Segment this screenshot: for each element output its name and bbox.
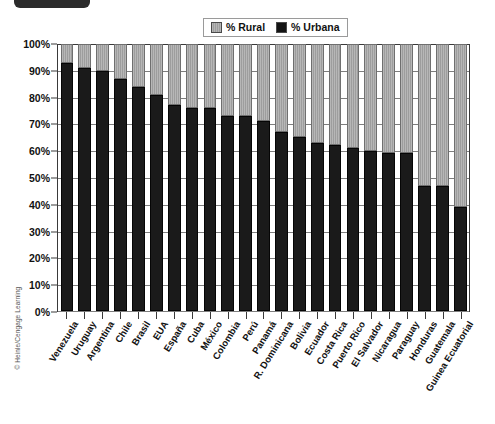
bar-segment-urbana[interactable] xyxy=(257,121,270,311)
stacked-bar[interactable] xyxy=(61,44,74,311)
bar-column[interactable] xyxy=(147,44,165,311)
bar-column[interactable] xyxy=(219,44,237,311)
bar-column[interactable] xyxy=(255,44,273,311)
stacked-bar[interactable] xyxy=(78,44,91,311)
stacked-bar[interactable] xyxy=(150,44,163,311)
bar-segment-urbana[interactable] xyxy=(168,105,181,311)
bar-column[interactable] xyxy=(76,44,94,311)
stacked-bar[interactable] xyxy=(132,44,145,311)
bar-segment-urbana[interactable] xyxy=(347,148,360,311)
bar-segment-rural[interactable] xyxy=(418,44,431,186)
x-axis-tick-mark xyxy=(389,312,390,319)
stacked-bar[interactable] xyxy=(364,44,377,311)
stacked-bar[interactable] xyxy=(329,44,342,311)
stacked-bar[interactable] xyxy=(275,44,288,311)
bar-segment-rural[interactable] xyxy=(364,44,377,151)
bar-segment-rural[interactable] xyxy=(275,44,288,132)
bar-column[interactable] xyxy=(308,44,326,311)
bar-segment-urbana[interactable] xyxy=(436,186,449,311)
bar-segment-rural[interactable] xyxy=(186,44,199,108)
bar-column[interactable] xyxy=(201,44,219,311)
x-axis-tick xyxy=(219,312,237,319)
stacked-bar[interactable] xyxy=(400,44,413,311)
bar-segment-rural[interactable] xyxy=(311,44,324,143)
bar-segment-urbana[interactable] xyxy=(311,143,324,311)
stacked-bar[interactable] xyxy=(454,44,467,311)
bar-segment-urbana[interactable] xyxy=(78,68,91,311)
stacked-bar[interactable] xyxy=(311,44,324,311)
bar-segment-rural[interactable] xyxy=(150,44,163,95)
bar-segment-urbana[interactable] xyxy=(293,137,306,311)
bar-column[interactable] xyxy=(58,44,76,311)
stacked-bar[interactable] xyxy=(96,44,109,311)
bar-column[interactable] xyxy=(237,44,255,311)
bar-column[interactable] xyxy=(273,44,291,311)
bar-segment-urbana[interactable] xyxy=(418,186,431,311)
bar-segment-urbana[interactable] xyxy=(221,116,234,311)
bar-segment-rural[interactable] xyxy=(400,44,413,153)
bar-segment-urbana[interactable] xyxy=(239,116,252,311)
stacked-bar[interactable] xyxy=(382,44,395,311)
bar-column[interactable] xyxy=(380,44,398,311)
stacked-bar[interactable] xyxy=(168,44,181,311)
bar-column[interactable] xyxy=(165,44,183,311)
bar-column[interactable] xyxy=(183,44,201,311)
bar-segment-urbana[interactable] xyxy=(61,63,74,311)
stacked-bar[interactable] xyxy=(239,44,252,311)
x-axis-tick xyxy=(362,312,380,319)
bar-segment-urbana[interactable] xyxy=(96,71,109,311)
bar-column[interactable] xyxy=(112,44,130,311)
bar-segment-rural[interactable] xyxy=(347,44,360,148)
bar-column[interactable] xyxy=(290,44,308,311)
bar-segment-rural[interactable] xyxy=(454,44,467,207)
bar-column[interactable] xyxy=(326,44,344,311)
bar-segment-urbana[interactable] xyxy=(204,108,217,311)
bar-column[interactable] xyxy=(130,44,148,311)
bar-segment-rural[interactable] xyxy=(168,44,181,105)
bar-segment-rural[interactable] xyxy=(204,44,217,108)
bar-segment-rural[interactable] xyxy=(293,44,306,137)
bar-segment-urbana[interactable] xyxy=(132,87,145,311)
bar-segment-rural[interactable] xyxy=(132,44,145,87)
bar-segment-rural[interactable] xyxy=(382,44,395,153)
bar-segment-urbana[interactable] xyxy=(275,132,288,311)
stacked-bar[interactable] xyxy=(204,44,217,311)
bar-column[interactable] xyxy=(362,44,380,311)
bar-segment-urbana[interactable] xyxy=(454,207,467,311)
bar-column[interactable] xyxy=(344,44,362,311)
stacked-bar[interactable] xyxy=(293,44,306,311)
x-axis-tick-mark xyxy=(228,312,229,319)
bar-segment-urbana[interactable] xyxy=(186,108,199,311)
bar-segment-rural[interactable] xyxy=(239,44,252,116)
bar-segment-urbana[interactable] xyxy=(150,95,163,311)
chart-plot-area xyxy=(57,44,470,312)
bar-segment-urbana[interactable] xyxy=(382,153,395,311)
bar-segment-urbana[interactable] xyxy=(329,145,342,311)
bar-segment-urbana[interactable] xyxy=(114,79,127,311)
stacked-bar[interactable] xyxy=(436,44,449,311)
bar-segment-rural[interactable] xyxy=(61,44,74,63)
bar-segment-urbana[interactable] xyxy=(400,153,413,311)
stacked-bar[interactable] xyxy=(186,44,199,311)
stacked-bar[interactable] xyxy=(257,44,270,311)
bar-column[interactable] xyxy=(451,44,469,311)
bar-segment-rural[interactable] xyxy=(96,44,109,71)
stacked-bar[interactable] xyxy=(114,44,127,311)
bar-column[interactable] xyxy=(398,44,416,311)
bar-segment-urbana[interactable] xyxy=(364,151,377,311)
bar-segment-rural[interactable] xyxy=(436,44,449,186)
stacked-bar[interactable] xyxy=(418,44,431,311)
bar-segment-rural[interactable] xyxy=(78,44,91,68)
bar-segment-rural[interactable] xyxy=(221,44,234,116)
x-axis-tick xyxy=(75,312,93,319)
stacked-bar[interactable] xyxy=(347,44,360,311)
bar-column[interactable] xyxy=(94,44,112,311)
bar-column[interactable] xyxy=(416,44,434,311)
bar-column[interactable] xyxy=(433,44,451,311)
bar-segment-rural[interactable] xyxy=(257,44,270,121)
bar-segment-rural[interactable] xyxy=(114,44,127,79)
bar-segment-rural[interactable] xyxy=(329,44,342,145)
top-black-tab xyxy=(14,0,90,8)
stacked-bar[interactable] xyxy=(221,44,234,311)
y-axis: 100%90%80%70%60%50%40%30%20%10%0% xyxy=(0,44,57,312)
